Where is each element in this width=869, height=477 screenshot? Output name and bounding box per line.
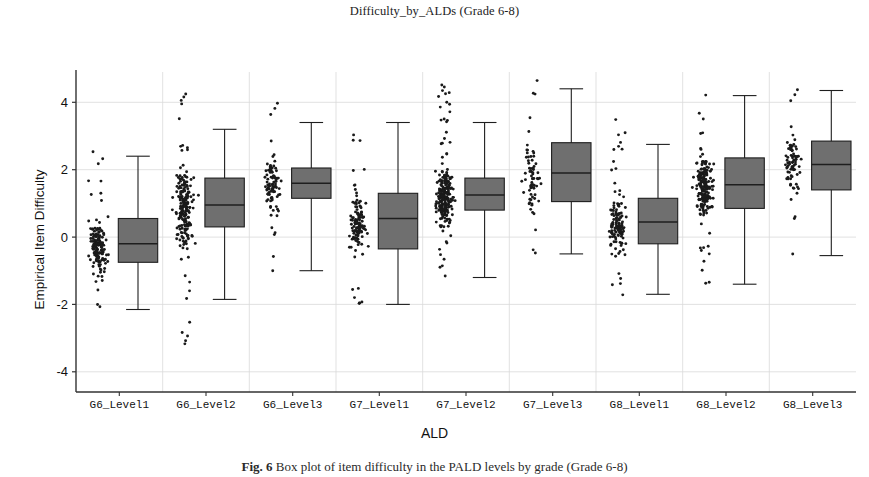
strip-point bbox=[624, 131, 627, 134]
box-iqr bbox=[552, 143, 591, 202]
strip-point bbox=[531, 196, 534, 199]
strip-point bbox=[438, 248, 441, 251]
strip-point bbox=[266, 181, 269, 184]
strip-point bbox=[181, 331, 184, 334]
strip-point bbox=[530, 198, 533, 201]
strip-point bbox=[273, 160, 276, 163]
strip-point bbox=[273, 153, 276, 156]
strip-point bbox=[614, 237, 617, 240]
strip-point bbox=[448, 205, 451, 208]
strip-point bbox=[702, 118, 705, 121]
strip-point bbox=[95, 280, 98, 283]
strip-point bbox=[712, 163, 715, 166]
strip-point bbox=[704, 183, 707, 186]
strip-point bbox=[528, 202, 531, 205]
strip-point bbox=[191, 200, 194, 203]
strip-point bbox=[443, 137, 446, 140]
strip-point bbox=[438, 201, 441, 204]
strip-point bbox=[533, 212, 536, 215]
strip-point bbox=[358, 302, 361, 305]
strip-point bbox=[610, 169, 613, 172]
strip-point bbox=[617, 133, 620, 136]
strip-point bbox=[179, 166, 182, 169]
strip-point bbox=[703, 197, 706, 200]
strip-point bbox=[354, 236, 357, 239]
strip-point bbox=[524, 172, 527, 175]
y-axis-title: Empirical Item Difficulty bbox=[32, 125, 47, 355]
figure-container: Difficulty_by_ALDs (Grade 6-8) -4-2024G6… bbox=[0, 0, 869, 477]
strip-point bbox=[800, 158, 803, 161]
strip-point bbox=[451, 208, 454, 211]
strip-point bbox=[705, 209, 708, 212]
strip-point bbox=[352, 133, 355, 136]
strip-point bbox=[180, 207, 183, 210]
strip-point bbox=[448, 177, 451, 180]
strip-point bbox=[611, 231, 614, 234]
strip-point bbox=[529, 155, 532, 158]
strip-point bbox=[175, 174, 178, 177]
strip-point bbox=[443, 86, 446, 89]
strip-point bbox=[612, 218, 615, 221]
strip-point bbox=[708, 232, 711, 235]
strip-point bbox=[699, 198, 702, 201]
strip-point bbox=[441, 264, 444, 267]
strip-point bbox=[701, 193, 704, 196]
strip-point bbox=[705, 166, 708, 169]
strip-point bbox=[434, 170, 437, 173]
strip-point bbox=[611, 225, 614, 228]
strip-point bbox=[93, 253, 96, 256]
strip-point bbox=[89, 258, 92, 261]
strip-point bbox=[87, 179, 90, 182]
gridlines bbox=[76, 72, 856, 392]
strip-point bbox=[711, 180, 714, 183]
strip-point bbox=[441, 156, 444, 159]
strip-point bbox=[445, 153, 448, 156]
strip-point bbox=[194, 242, 197, 245]
strip-point bbox=[526, 151, 529, 154]
strip-point bbox=[176, 185, 179, 188]
y-tick-group: -4-2024 bbox=[56, 95, 76, 380]
strip-point bbox=[622, 237, 625, 240]
strip-point bbox=[185, 180, 188, 183]
box-iqr bbox=[725, 158, 764, 209]
box-iqr bbox=[205, 178, 244, 227]
x-tick-label: G7_Level1 bbox=[350, 399, 410, 411]
strip-point bbox=[624, 206, 627, 209]
strip-point bbox=[184, 186, 187, 189]
strip-point bbox=[92, 150, 95, 153]
strip-point bbox=[520, 180, 523, 183]
strip-point bbox=[532, 248, 535, 251]
strip-point bbox=[529, 169, 532, 172]
strip-point bbox=[701, 162, 704, 165]
y-tick-label: 0 bbox=[61, 230, 68, 245]
strip-point bbox=[360, 213, 363, 216]
strip-point bbox=[440, 190, 443, 193]
strip-point bbox=[441, 170, 444, 173]
strip-point bbox=[792, 187, 795, 190]
strip-point bbox=[180, 231, 183, 234]
strip-point bbox=[537, 200, 540, 203]
strip-point bbox=[613, 201, 616, 204]
strip-point bbox=[614, 190, 617, 193]
strip-point bbox=[447, 190, 450, 193]
strip-point bbox=[270, 196, 273, 199]
strip-point bbox=[699, 132, 702, 135]
box-iqr bbox=[465, 178, 504, 210]
strip-point bbox=[440, 142, 443, 145]
strip-point bbox=[615, 225, 618, 228]
strip-point bbox=[527, 162, 530, 165]
strip-point bbox=[446, 181, 449, 184]
strip-point bbox=[353, 256, 356, 259]
strip-point bbox=[699, 246, 702, 249]
strip-point bbox=[271, 189, 274, 192]
strip-point bbox=[87, 220, 90, 223]
strip-point bbox=[364, 202, 367, 205]
strip-point bbox=[796, 173, 799, 176]
strip-point bbox=[354, 233, 357, 236]
strip-point bbox=[188, 281, 191, 284]
strip-point bbox=[276, 214, 279, 217]
strip-point bbox=[700, 206, 703, 209]
strip-point bbox=[788, 171, 791, 174]
strip-point bbox=[447, 211, 450, 214]
strip-point bbox=[91, 228, 94, 231]
